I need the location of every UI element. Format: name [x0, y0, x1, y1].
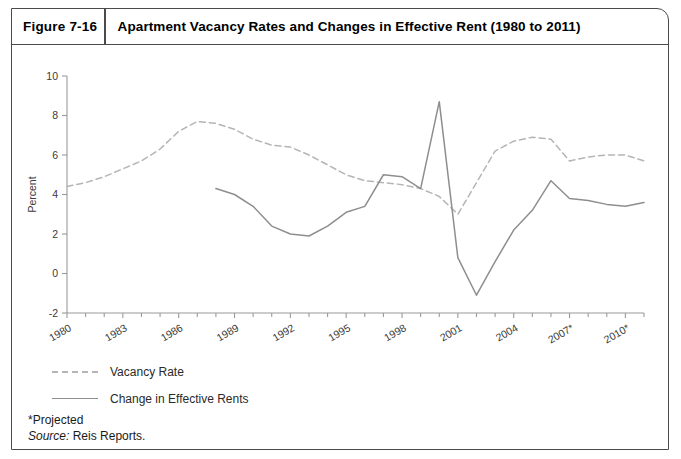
legend-item-change-in-effective-rents: Change in Effective Rents [52, 385, 249, 412]
footnote-projected: *Projected [28, 412, 145, 428]
svg-text:4: 4 [52, 188, 58, 200]
svg-text:0: 0 [52, 267, 58, 279]
svg-text:Percent: Percent [26, 176, 38, 212]
figure-page: Figure 7-16 Apartment Vacancy Rates and … [0, 0, 681, 459]
legend-label-vacancy-rate: Vacancy Rate [110, 365, 184, 379]
svg-text:2007*: 2007* [546, 321, 576, 345]
figure-footnotes: *Projected Source: Reis Reports. [28, 412, 145, 444]
svg-text:1992: 1992 [270, 321, 296, 343]
legend-swatch-dashed-icon [52, 371, 98, 373]
chart-area: -20246810Percent198019831986198919921995… [11, 46, 669, 356]
svg-text:2: 2 [52, 228, 58, 240]
figure-title: Apartment Vacancy Rates and Changes in E… [106, 19, 581, 34]
series-change-in-effective-rents [216, 102, 644, 296]
svg-text:2004: 2004 [493, 321, 519, 343]
svg-text:6: 6 [52, 149, 58, 161]
series-vacancy-rate [67, 121, 644, 214]
svg-text:1983: 1983 [103, 321, 129, 343]
svg-text:8: 8 [52, 109, 58, 121]
footnote-source-text: Reis Reports. [73, 429, 146, 443]
svg-text:-2: -2 [49, 307, 58, 319]
svg-text:1989: 1989 [214, 321, 240, 343]
legend-item-vacancy-rate: Vacancy Rate [52, 358, 249, 385]
svg-text:2001: 2001 [438, 321, 464, 343]
legend-label-change-in-effective-rents: Change in Effective Rents [110, 392, 249, 406]
svg-text:1998: 1998 [382, 321, 408, 343]
svg-text:1995: 1995 [326, 321, 352, 343]
svg-text:1986: 1986 [158, 321, 184, 343]
figure-title-bar: Figure 7-16 Apartment Vacancy Rates and … [11, 8, 669, 45]
svg-text:10: 10 [46, 70, 58, 82]
svg-text:1980: 1980 [47, 321, 73, 343]
figure-number: Figure 7-16 [11, 19, 104, 34]
line-chart: -20246810Percent198019831986198919921995… [11, 46, 669, 356]
footnote-source-prefix: Source: [28, 429, 69, 443]
svg-text:2010*: 2010* [602, 321, 632, 345]
footnote-source: Source: Reis Reports. [28, 428, 145, 444]
legend-swatch-solid-icon [52, 398, 98, 400]
chart-legend: Vacancy Rate Change in Effective Rents [52, 358, 249, 412]
